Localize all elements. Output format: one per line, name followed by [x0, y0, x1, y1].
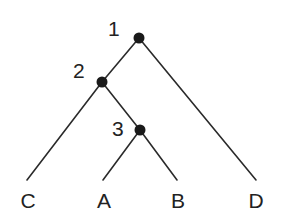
- node-2-label: 2: [73, 59, 85, 82]
- phylogenetic-tree: 1 2 3 C A B D: [0, 0, 286, 223]
- leaf-label-a: A: [97, 189, 111, 212]
- node-1: [134, 33, 145, 44]
- node-2: [97, 77, 108, 88]
- node-1-label: 1: [108, 17, 120, 40]
- node-3: [135, 125, 146, 136]
- branch-3-to-B: [140, 130, 177, 180]
- leaf-label-b: B: [171, 189, 185, 212]
- branch-2-to-C: [27, 82, 102, 180]
- leaf-label-c: C: [20, 189, 35, 212]
- leaf-label-d: D: [248, 189, 263, 212]
- branch-1-to-2: [102, 38, 139, 82]
- branch-1-to-D: [139, 38, 256, 180]
- node-3-label: 3: [112, 117, 124, 140]
